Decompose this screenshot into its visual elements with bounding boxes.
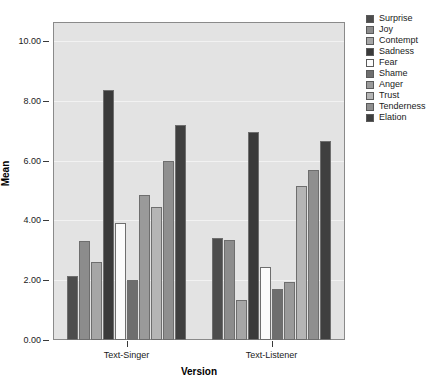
bar[interactable] — [103, 90, 114, 340]
legend-label: Trust — [379, 90, 399, 101]
y-tick-label: 6.00 — [23, 156, 41, 166]
bar[interactable] — [151, 207, 162, 340]
legend-label: Surprise — [379, 13, 413, 24]
legend-label: Anger — [379, 79, 403, 90]
y-tick-mark — [43, 280, 49, 281]
bar[interactable] — [139, 195, 150, 340]
legend-swatch-icon — [366, 37, 374, 45]
chart-root: Mean 0.002.004.006.008.0010.00 Version S… — [0, 0, 441, 385]
legend-item[interactable]: Tenderness — [366, 101, 426, 112]
bar[interactable] — [260, 267, 271, 340]
legend-label: Fear — [379, 57, 398, 68]
y-axis: Mean 0.002.004.006.008.0010.00 — [0, 0, 53, 385]
legend-item[interactable]: Shame — [366, 68, 426, 79]
legend-swatch-icon — [366, 59, 374, 67]
bar[interactable] — [212, 238, 223, 340]
x-tick-mark — [272, 341, 273, 347]
y-tick-mark — [43, 101, 49, 102]
x-tick-label: Text-Singer — [104, 350, 150, 360]
legend-label: Shame — [379, 68, 408, 79]
y-tick-label: 0.00 — [23, 335, 41, 345]
legend-label: Contempt — [379, 35, 418, 46]
legend-item[interactable]: Sadness — [366, 46, 426, 57]
legend-label: Sadness — [379, 46, 414, 57]
legend-item[interactable]: Elation — [366, 112, 426, 123]
legend-swatch-icon — [366, 81, 374, 89]
bar[interactable] — [248, 132, 259, 340]
legend-swatch-icon — [366, 48, 374, 56]
legend-label: Joy — [379, 24, 393, 35]
y-tick-label: 8.00 — [23, 96, 41, 106]
legend-item[interactable]: Joy — [366, 24, 426, 35]
y-tick-label: 4.00 — [23, 215, 41, 225]
legend-item[interactable]: Contempt — [366, 35, 426, 46]
x-tick-mark — [127, 341, 128, 347]
bar[interactable] — [175, 125, 186, 340]
legend-swatch-icon — [366, 103, 374, 111]
y-tick-label: 10.00 — [18, 36, 41, 46]
y-tick-mark — [43, 220, 49, 221]
bars-layer — [54, 23, 344, 340]
x-axis-title: Version — [181, 366, 217, 377]
legend-item[interactable]: Trust — [366, 90, 426, 101]
y-tick-mark — [43, 340, 49, 341]
y-tick-label: 2.00 — [23, 275, 41, 285]
bar[interactable] — [284, 282, 295, 340]
y-axis-title: Mean — [0, 161, 11, 187]
bar[interactable] — [308, 170, 319, 340]
legend-item[interactable]: Surprise — [366, 13, 426, 24]
bar[interactable] — [272, 289, 283, 340]
legend-swatch-icon — [366, 15, 374, 23]
legend: Surprise Joy Contempt Sadness Fear Shame… — [366, 13, 426, 123]
bar[interactable] — [163, 161, 174, 340]
bar-group — [212, 23, 332, 340]
bar[interactable] — [236, 300, 247, 340]
x-tick-label: Text-Listener — [246, 350, 298, 360]
bar[interactable] — [127, 280, 138, 340]
legend-swatch-icon — [366, 114, 374, 122]
legend-item[interactable]: Fear — [366, 57, 426, 68]
legend-swatch-icon — [366, 92, 374, 100]
bar[interactable] — [224, 240, 235, 340]
bar[interactable] — [79, 241, 90, 340]
y-tick-mark — [43, 161, 49, 162]
bar[interactable] — [115, 223, 126, 340]
legend-label: Elation — [379, 112, 407, 123]
legend-item[interactable]: Anger — [366, 79, 426, 90]
legend-label: Tenderness — [379, 101, 426, 112]
bar-group — [67, 23, 187, 340]
legend-swatch-icon — [366, 70, 374, 78]
y-tick-mark — [43, 41, 49, 42]
legend-swatch-icon — [366, 26, 374, 34]
bar[interactable] — [296, 186, 307, 340]
bar[interactable] — [91, 262, 102, 340]
bar[interactable] — [320, 141, 331, 340]
bar[interactable] — [67, 276, 78, 340]
